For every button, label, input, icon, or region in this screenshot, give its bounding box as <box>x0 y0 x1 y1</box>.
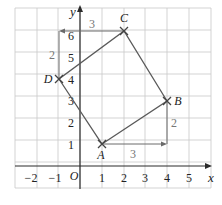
coordinate-grid-diagram: −2 −1 1 2 3 4 5 1 2 3 4 5 6 O x y 3 2 3 … <box>0 0 222 205</box>
ab-horizontal-step-label: 3 <box>130 147 136 161</box>
dc-horizontal-step-label: 3 <box>89 17 95 31</box>
ab-vertical-step-label: 2 <box>171 116 177 130</box>
x-tick-labels: −2 −1 1 2 3 4 5 <box>25 171 192 185</box>
x-tick-label: 3 <box>142 171 148 185</box>
y-tick-label: 5 <box>68 51 74 65</box>
dc-vertical-step-label: 2 <box>49 48 55 62</box>
ab-step-arrow-icon <box>161 142 167 147</box>
point-a: A <box>96 140 106 162</box>
y-tick-label: 1 <box>68 138 74 152</box>
origin-label: O <box>70 169 79 183</box>
x-tick-label: 2 <box>121 171 127 185</box>
dc-step-arrow-icon <box>59 29 65 34</box>
y-tick-labels: 1 2 3 4 5 6 <box>68 29 74 152</box>
x-tick-label: 5 <box>186 171 192 185</box>
y-tick-label: 2 <box>68 116 74 130</box>
y-axis-arrow-icon <box>77 5 83 12</box>
y-tick-label: 4 <box>68 73 74 87</box>
x-tick-label: −1 <box>49 171 62 185</box>
x-tick-label: 4 <box>164 171 170 185</box>
x-tick-label: 1 <box>99 171 105 185</box>
point-d-label: D <box>43 72 53 86</box>
y-axis-label: y <box>68 4 76 19</box>
point-b-label: B <box>174 94 182 108</box>
x-tick-label: −2 <box>25 171 38 185</box>
point-a-label: A <box>96 148 105 162</box>
x-axis-label: x <box>207 170 214 185</box>
axes <box>15 5 212 189</box>
square-abcd <box>59 31 167 144</box>
point-c-label: C <box>120 11 129 25</box>
